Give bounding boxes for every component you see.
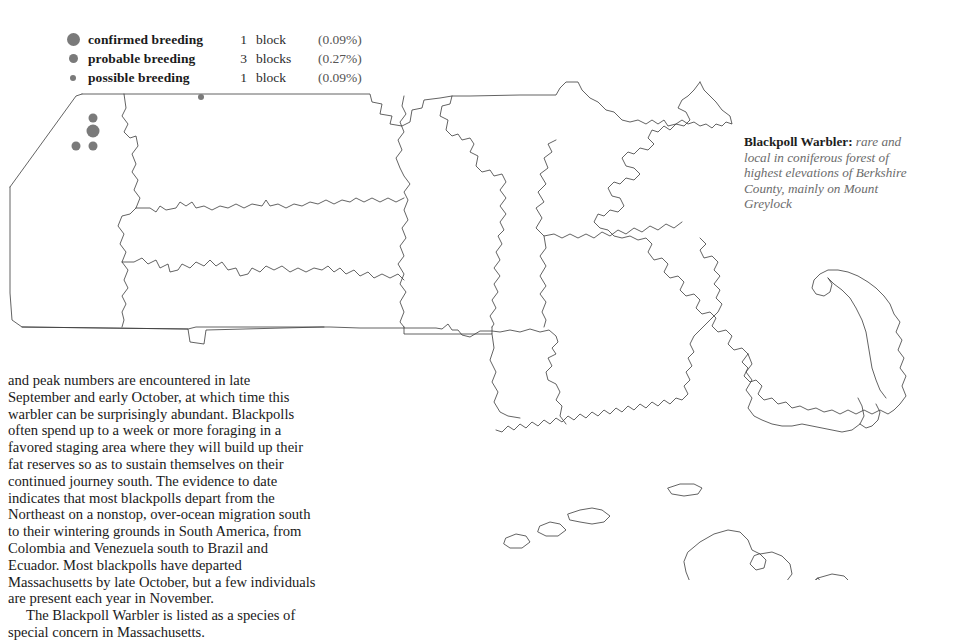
middlesex-norfolk-essex-lines (536, 140, 682, 238)
legend-row: probable breeding 3 blocks (0.27%) (58, 49, 398, 68)
map-dot-probable-breeding (89, 142, 98, 151)
norfolk-plymouth-county-line (540, 236, 546, 327)
marthas-vineyard-pond-detail (750, 554, 766, 570)
map-dot-confirmed-breeding (87, 125, 100, 138)
map-dot-probable-breeding (72, 142, 81, 151)
franklin-hampshire-county-line (136, 198, 404, 212)
northern-state-border (82, 82, 732, 128)
article-body: and peak numbers are encountered in late… (8, 372, 316, 641)
elizabeth-islands-3 (504, 534, 530, 548)
body-paragraph-2: The Blackpoll Warbler is listed as a spe… (8, 607, 316, 641)
elizabeth-islands (568, 508, 610, 524)
elizabeth-islands-4 (668, 484, 702, 496)
confirmed-breeding-dot-icon (58, 33, 88, 46)
breeding-status-legend: confirmed breeding 1 block (0.09%) proba… (58, 30, 398, 87)
map-dot-probable-breeding (89, 114, 98, 123)
hampshire-hampden-county-line (122, 258, 404, 280)
southern-state-border (22, 327, 324, 344)
worcester-middlesex-county-line (440, 96, 506, 327)
buzzards-bay-coastline (496, 318, 712, 432)
nantucket-harbor-detail (812, 578, 828, 580)
probable-breeding-dot-icon (58, 54, 88, 63)
species-caption: Blackpoll Warbler: rare and local in con… (744, 134, 914, 212)
legend-unit: block (247, 32, 318, 48)
body-paragraph-1: and peak numbers are encountered in late… (8, 372, 316, 607)
legend-label: probable breeding (88, 51, 233, 67)
marthas-vineyard (684, 530, 792, 580)
nauset-marsh-detail (860, 404, 880, 428)
cape-cod-south-coastline (746, 354, 864, 432)
boston-harbor-coastline (700, 238, 722, 318)
rhode-island-border (490, 334, 520, 418)
legend-count: 3 (233, 51, 247, 67)
western-state-border (10, 94, 82, 187)
berkshire-county-east-border (118, 94, 140, 327)
legend-count: 1 (233, 32, 247, 48)
outer-cape-inner-shore (828, 278, 886, 398)
legend-row: confirmed breeding 1 block (0.09%) (58, 30, 398, 49)
nantucket-island (790, 574, 856, 580)
elizabeth-islands-2 (538, 522, 566, 536)
legend-percent: (0.09%) (318, 32, 362, 48)
map-dot-possible-breeding (198, 94, 204, 100)
worcester-county-west-border (396, 96, 410, 327)
legend-label: confirmed breeding (88, 32, 233, 48)
legend-unit: blocks (247, 51, 318, 67)
legend-percent: (0.27%) (318, 51, 362, 67)
species-name: Blackpoll Warbler: (744, 134, 853, 149)
